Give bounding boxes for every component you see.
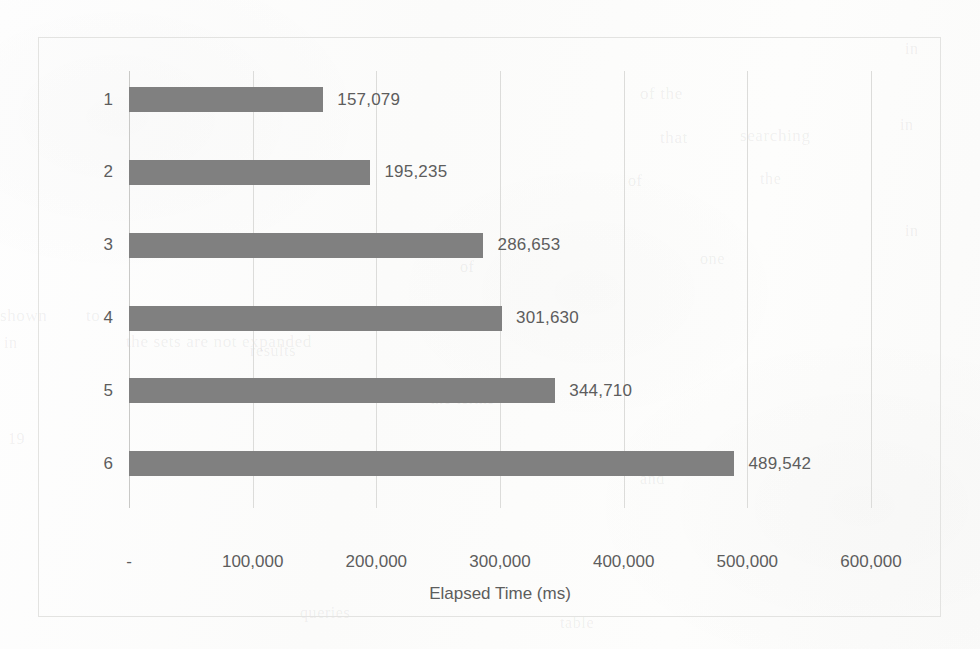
bleed-through-text: in (4, 334, 18, 352)
bar-value-label: 301,630 (516, 308, 579, 328)
value-axis-line (129, 71, 130, 508)
gridline-300000 (500, 71, 501, 508)
bar-value-label: 157,079 (337, 90, 400, 110)
category-label: 3 (104, 235, 113, 255)
gridline-200000 (376, 71, 377, 508)
x-tick-label: 300,000 (469, 552, 530, 572)
bar (129, 306, 502, 331)
category-label: 4 (104, 308, 113, 328)
bar (129, 378, 555, 403)
category-label: 1 (104, 90, 113, 110)
category-label: 5 (104, 381, 113, 401)
bar-row: 5344,710 (129, 378, 871, 403)
x-tick-label: 400,000 (593, 552, 654, 572)
scanned-page: of theinthatsearchinginoftheshowntofrom … (0, 0, 980, 649)
bar-value-label: 286,653 (497, 235, 560, 255)
bar (129, 87, 323, 112)
bar (129, 233, 483, 258)
bar-value-label: 195,235 (384, 162, 447, 182)
bar-row: 4301,630 (129, 306, 871, 331)
gridline-500000 (747, 71, 748, 508)
bar-row: 3286,653 (129, 233, 871, 258)
chart-frame: Number of search terms 1157,0792195,2353… (38, 37, 941, 617)
gridline-600000 (871, 71, 872, 508)
plot-area: 1157,0792195,2353286,6534301,6305344,710… (129, 71, 871, 508)
gridline-400000 (624, 71, 625, 508)
x-tick-label: 500,000 (717, 552, 778, 572)
x-axis-title: Elapsed Time (ms) (129, 584, 871, 604)
bar-row: 1157,079 (129, 87, 871, 112)
bar (129, 451, 734, 476)
gridline-100000 (253, 71, 254, 508)
category-label: 6 (104, 454, 113, 474)
x-tick-label: 100,000 (222, 552, 283, 572)
bar (129, 160, 370, 185)
bar-row: 2195,235 (129, 160, 871, 185)
x-tick-label: 200,000 (346, 552, 407, 572)
x-tick-label: - (126, 552, 132, 572)
category-label: 2 (104, 162, 113, 182)
bar-value-label: 344,710 (569, 381, 632, 401)
bar-value-label: 489,542 (748, 454, 811, 474)
bar-row: 6489,542 (129, 451, 871, 476)
bleed-through-text: 19 (8, 430, 25, 448)
x-tick-label: 600,000 (840, 552, 901, 572)
